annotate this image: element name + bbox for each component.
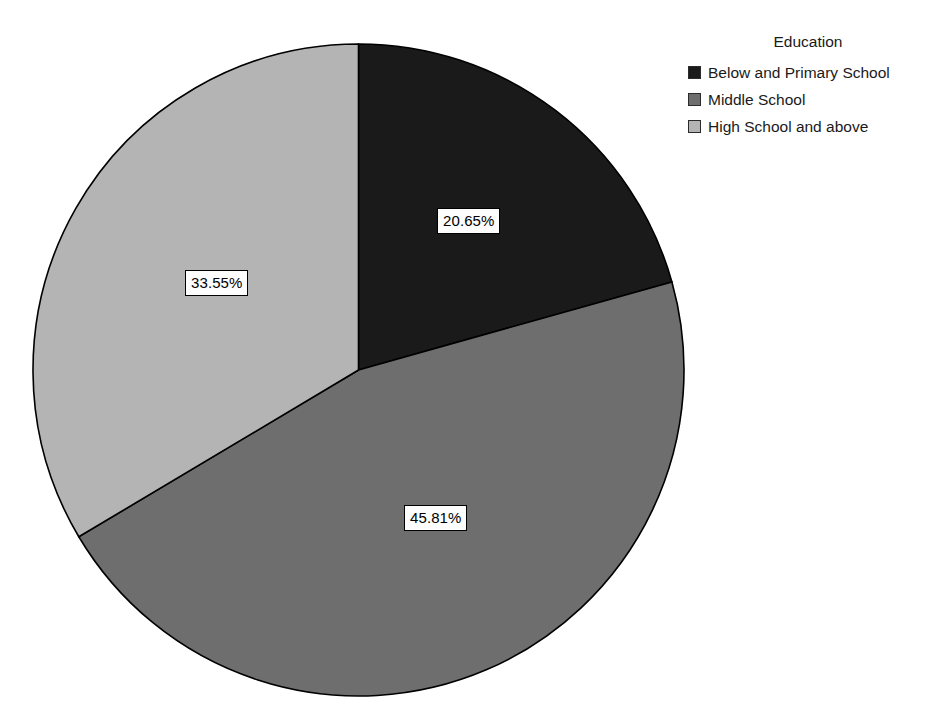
pie-chart: 20.65% 45.81% 33.55% Education Below and… xyxy=(0,0,944,725)
slice-label-high-school-and-above: 33.55% xyxy=(185,270,248,296)
slice-label-middle-school: 45.81% xyxy=(404,505,467,531)
legend-item-middle-school[interactable]: Middle School xyxy=(688,89,944,110)
legend-swatch-icon xyxy=(688,93,701,106)
legend-swatch-icon xyxy=(688,120,701,133)
pie-slices-group xyxy=(33,44,684,696)
legend-item-high-school-and-above[interactable]: High School and above xyxy=(688,116,944,137)
legend-item-label: High School and above xyxy=(708,119,868,135)
legend-item-label: Middle School xyxy=(708,92,805,108)
legend: Education Below and Primary School Middl… xyxy=(688,33,944,143)
legend-item-label: Below and Primary School xyxy=(708,65,890,81)
legend-title: Education xyxy=(688,33,944,51)
legend-swatch-icon xyxy=(688,66,701,79)
legend-item-below-and-primary-school[interactable]: Below and Primary School xyxy=(688,62,944,83)
slice-label-below-and-primary-school: 20.65% xyxy=(437,208,500,234)
